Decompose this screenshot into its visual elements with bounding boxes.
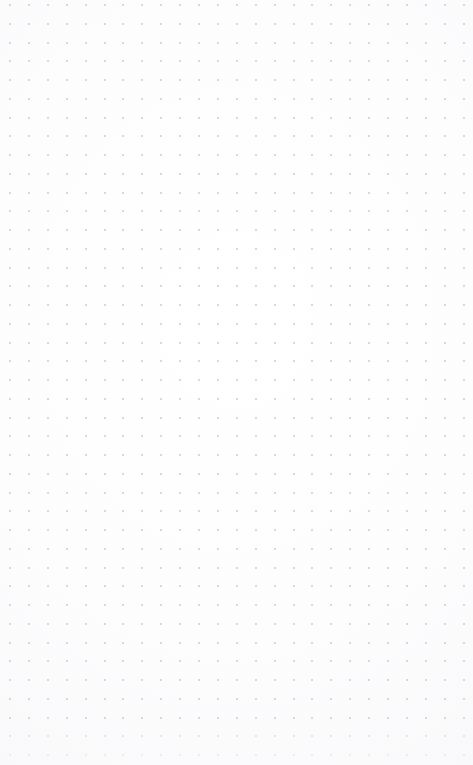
canvas-surface[interactable] — [0, 0, 473, 765]
dot-grid-canvas[interactable] — [0, 0, 473, 765]
